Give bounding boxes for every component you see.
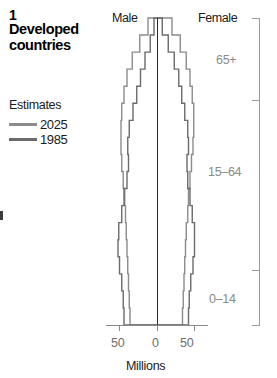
age-label-15-64: 15–64 <box>208 166 241 179</box>
x-tick-label-right-50: 50 <box>180 337 193 350</box>
x-tick-label-left-50: 50 <box>111 337 124 350</box>
legend-item-1985: 1985 <box>9 132 109 147</box>
figure-panel: 1 Developed countries Estimates 2025 198… <box>0 0 277 378</box>
x-tick-label-zero: 0 <box>152 337 159 350</box>
crop-edge-artifact <box>0 211 3 220</box>
legend-item-2025: 2025 <box>9 117 109 132</box>
pyramid-outline-1985-female <box>157 18 195 325</box>
x-axis-caption: Millions <box>126 360 165 373</box>
legend-line-swatch-1985 <box>9 138 37 141</box>
legend-label-2025: 2025 <box>40 118 67 131</box>
legend-line-swatch-2025 <box>9 123 37 126</box>
legend: Estimates 2025 1985 <box>9 98 109 147</box>
legend-label-1985: 1985 <box>40 133 67 146</box>
panel-title-line-1: Developed <box>9 22 109 38</box>
age-label-65-plus: 65+ <box>216 54 236 67</box>
age-label-0-14: 0–14 <box>209 293 236 306</box>
age-bracket-rules <box>248 6 264 334</box>
legend-title: Estimates <box>9 98 109 112</box>
page-title: Developed countries <box>9 22 109 53</box>
panel-title-line-2: countries <box>9 38 109 54</box>
pyramid-svg <box>104 6 212 334</box>
panel-number: 1 <box>9 8 17 22</box>
population-pyramid-plot <box>104 6 212 334</box>
